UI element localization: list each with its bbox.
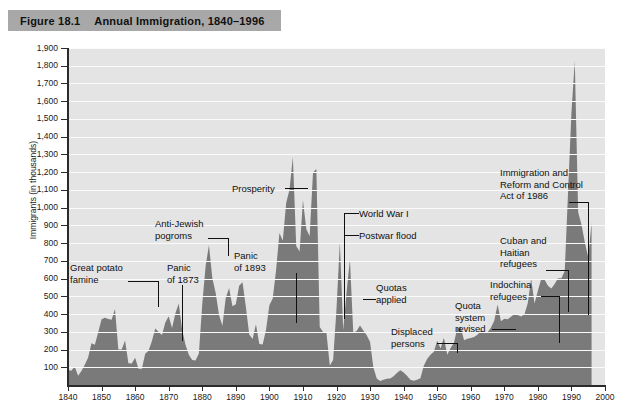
x-axis-tick-label: 1900	[252, 393, 286, 402]
annotation-leader-line	[296, 273, 297, 323]
annotation-leader-line	[344, 213, 359, 214]
x-axis-tick-label: 1980	[521, 393, 555, 402]
y-axis-tick-label: 1,600	[37, 97, 58, 106]
annotation-leader-line	[588, 202, 589, 315]
x-axis-tick	[504, 386, 505, 391]
annotation-leader-line	[559, 296, 560, 343]
y-axis-tick	[61, 296, 67, 297]
annotation-immigration-reform-control-act: Immigration and Reform and Control Act o…	[500, 167, 583, 202]
annotation-cuban-haitian-refugees: Cuban and Haitian refugees	[500, 235, 546, 270]
annotation-leader-line	[363, 299, 376, 300]
x-axis-tick	[538, 386, 539, 391]
annotation-quotas-applied: Quotas applied	[376, 282, 407, 305]
chart: Immigrants (in thousands) 1,9001,8001,70…	[0, 0, 642, 412]
annotation-leader-line	[158, 281, 159, 307]
gridline	[68, 208, 605, 209]
annotation-leader-line	[344, 213, 345, 319]
x-axis-tick-label: 1890	[219, 393, 253, 402]
y-axis-tick-label: 800	[44, 239, 58, 248]
y-axis-tick-label: 700	[44, 256, 58, 265]
annotation-leader-line	[546, 270, 568, 271]
x-axis-tick-label: 2000	[588, 393, 622, 402]
x-axis-tick	[471, 386, 472, 391]
annotation-indochina-refugees: Indochina refugees	[490, 279, 531, 302]
gridline	[68, 314, 605, 315]
annotation-prosperity: Prosperity	[232, 183, 275, 195]
annotation-leader-line	[182, 285, 183, 341]
x-axis-tick	[135, 386, 136, 391]
y-axis-tick-label: 1,500	[37, 114, 58, 123]
plot-area	[68, 48, 605, 385]
y-axis-tick-label: 1,800	[37, 61, 58, 70]
x-axis-tick-label: 1910	[286, 393, 320, 402]
y-axis-tick-label: 100	[44, 363, 58, 372]
annotation-leader-line	[569, 202, 588, 203]
immigration-area-series	[68, 48, 605, 385]
y-axis-tick-label: 600	[44, 274, 58, 283]
y-axis-tick	[61, 172, 67, 173]
x-axis-tick	[571, 386, 572, 391]
y-axis-tick-label: 300	[44, 327, 58, 336]
y-axis-tick	[61, 66, 67, 67]
x-axis-tick-label: 1940	[387, 393, 421, 402]
annotation-quota-system-revised: Quota system revised	[455, 300, 486, 335]
annotation-leader-line	[457, 343, 458, 353]
y-axis-tick	[61, 367, 67, 368]
x-axis-tick-label: 1870	[152, 393, 186, 402]
annotation-leader-line	[285, 188, 308, 189]
x-axis-tick	[605, 386, 606, 391]
x-axis-tick	[269, 386, 270, 391]
x-axis-tick-label: 1950	[420, 393, 454, 402]
annotation-anti-jewish-pogroms: Anti-Jewish pogroms	[155, 218, 204, 241]
y-axis-tick	[61, 279, 67, 280]
y-axis-tick	[61, 48, 67, 49]
y-axis-tick	[61, 243, 67, 244]
gridline	[68, 225, 605, 226]
x-axis-tick	[404, 386, 405, 391]
figure-container: Figure 18.1 Annual Immigration, 1840–199…	[0, 0, 642, 412]
y-axis-tick	[61, 350, 67, 351]
x-axis-tick	[102, 386, 103, 391]
gridline	[68, 48, 605, 49]
y-axis-tick	[61, 119, 67, 120]
annotation-leader-line	[437, 343, 457, 344]
annotation-leader-line	[344, 235, 359, 236]
annotation-displaced-persons: Displaced persons	[391, 326, 433, 349]
y-axis-tick-label: 1,900	[37, 44, 58, 53]
gridline	[68, 137, 605, 138]
x-axis-tick-label: 1990	[554, 393, 588, 402]
annotation-leader-line	[128, 281, 158, 282]
y-axis-tick	[61, 83, 67, 84]
y-axis-tick	[61, 261, 67, 262]
gridline	[68, 101, 605, 102]
annotation-leader-line	[228, 238, 229, 256]
gridline	[68, 367, 605, 368]
y-axis-tick	[61, 190, 67, 191]
y-axis-tick	[61, 101, 67, 102]
y-axis-tick-label: 500	[44, 292, 58, 301]
y-axis-tick	[61, 314, 67, 315]
y-axis-line	[67, 48, 69, 386]
y-axis-tick-label: 900	[44, 221, 58, 230]
gridline	[68, 83, 605, 84]
x-axis-tick-label: 1970	[487, 393, 521, 402]
y-axis-tick	[61, 154, 67, 155]
x-axis-tick-label: 1840	[51, 393, 85, 402]
y-axis-tick-label: 400	[44, 310, 58, 319]
x-axis-tick	[303, 386, 304, 391]
gridline	[68, 350, 605, 351]
x-axis-tick-label: 1920	[320, 393, 354, 402]
y-axis-tick-label: 1,300	[37, 150, 58, 159]
annotation-panic-of-1893: Panic of 1893	[234, 250, 266, 273]
y-axis-tick-label: 1,000	[37, 203, 58, 212]
x-axis-tick	[337, 386, 338, 391]
y-axis-tick-label: 1,400	[37, 132, 58, 141]
y-axis-tick	[61, 137, 67, 138]
annotation-leader-line	[208, 238, 228, 239]
x-axis-tick	[370, 386, 371, 391]
gridline	[68, 119, 605, 120]
x-axis-tick-label: 1930	[353, 393, 387, 402]
x-axis-tick	[169, 386, 170, 391]
y-axis-tick	[61, 208, 67, 209]
x-axis-tick	[437, 386, 438, 391]
